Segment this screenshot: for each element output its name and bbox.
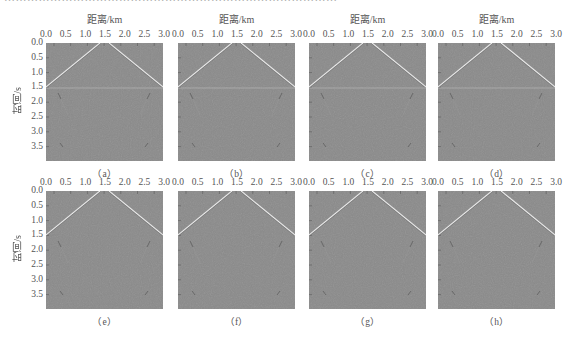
x-tick: 1.0: [79, 29, 91, 39]
y-tick: 3.0: [31, 274, 43, 284]
x-axis-title: 距离/km: [438, 11, 555, 26]
x-tick: 0.0: [172, 29, 184, 39]
x-tick: 2.5: [270, 177, 282, 187]
x-tick: 0.5: [60, 29, 72, 39]
x-tick: 3.0: [550, 29, 562, 39]
seismic-plot: [178, 43, 295, 161]
x-tick: 3.0: [290, 177, 302, 187]
x-tick: 0.0: [303, 29, 315, 39]
seismic-plot: [178, 191, 295, 309]
y-axis-title: 时间/s: [10, 87, 25, 114]
seismic-plot: [46, 191, 163, 309]
x-tick: 1.0: [79, 177, 91, 187]
x-tick-labels: 0.00.51.01.52.02.53.0: [303, 177, 433, 187]
x-tick: 0.5: [323, 177, 335, 187]
x-tick: 1.5: [362, 177, 374, 187]
x-tick: 1.5: [231, 177, 243, 187]
x-tick: 2.0: [119, 177, 131, 187]
x-tick: 1.0: [342, 29, 354, 39]
y-tick: 0.0: [31, 37, 43, 47]
x-axis-title: 距离/km: [46, 11, 163, 26]
y-tick: 2.0: [31, 244, 43, 254]
y-tick: 1.0: [31, 215, 43, 225]
x-tick: 2.0: [251, 29, 263, 39]
x-tick: 2.5: [530, 177, 542, 187]
x-tick: 1.0: [211, 177, 223, 187]
x-tick: 1.5: [491, 29, 503, 39]
x-tick: 3.0: [158, 177, 170, 187]
x-tick: 0.0: [303, 177, 315, 187]
x-tick: 0.0: [432, 29, 444, 39]
x-tick: 1.0: [211, 29, 223, 39]
x-tick: 0.5: [192, 29, 204, 39]
x-tick: 2.0: [511, 29, 523, 39]
y-tick: 3.5: [31, 289, 43, 299]
x-tick: 0.5: [452, 177, 464, 187]
x-tick: 2.5: [401, 177, 413, 187]
x-tick: 2.5: [270, 29, 282, 39]
subplot-caption: （h）: [438, 314, 555, 328]
y-tick: 1.5: [31, 81, 43, 91]
x-tick: 0.0: [172, 177, 184, 187]
y-tick: 3.5: [31, 141, 43, 151]
x-tick: 2.5: [401, 29, 413, 39]
y-tick: 0.5: [31, 200, 43, 210]
subplot-caption: （g）: [309, 314, 426, 328]
x-tick: 0.5: [452, 29, 464, 39]
y-tick: 2.5: [31, 259, 43, 269]
x-tick-labels: 0.00.51.01.52.02.53.0: [40, 177, 170, 187]
x-tick: 1.5: [362, 29, 374, 39]
cropped-text-bottom: …………………………………………………………………………: [0, 337, 572, 342]
seismic-plot: [438, 43, 555, 161]
y-tick-labels: 0.00.51.01.52.02.53.03.5: [26, 191, 43, 309]
x-tick: 0.5: [192, 177, 204, 187]
x-tick-labels: 0.00.51.01.52.02.53.0: [303, 29, 433, 39]
x-tick: 2.0: [251, 177, 263, 187]
seismic-plot: [309, 191, 426, 309]
seismic-plot: [46, 43, 163, 161]
cropped-text-top: ……………………………………………………………………………: [0, 0, 572, 4]
x-tick: 1.5: [99, 177, 111, 187]
x-tick: 1.5: [231, 29, 243, 39]
x-tick: 2.0: [382, 29, 394, 39]
x-tick: 1.0: [471, 177, 483, 187]
x-tick: 2.5: [530, 29, 542, 39]
x-tick: 1.0: [471, 29, 483, 39]
x-tick-labels: 0.00.51.01.52.02.53.0: [40, 29, 170, 39]
x-tick: 2.5: [138, 177, 150, 187]
x-tick: 0.0: [432, 177, 444, 187]
seismic-plot: [309, 43, 426, 161]
y-tick: 2.0: [31, 96, 43, 106]
y-tick: 0.0: [31, 185, 43, 195]
x-tick-labels: 0.00.51.01.52.02.53.0: [172, 177, 302, 187]
x-tick-labels: 0.00.51.01.52.02.53.0: [432, 177, 562, 187]
y-tick: 2.5: [31, 111, 43, 121]
x-tick-labels: 0.00.51.01.52.02.53.0: [172, 29, 302, 39]
y-tick-labels: 0.00.51.01.52.02.53.03.5: [26, 43, 43, 161]
x-tick: 3.0: [550, 177, 562, 187]
x-tick: 3.0: [158, 29, 170, 39]
x-tick: 1.0: [342, 177, 354, 187]
x-tick: 2.0: [382, 177, 394, 187]
subplot-caption: （e）: [46, 314, 163, 328]
x-tick-labels: 0.00.51.01.52.02.53.0: [432, 29, 562, 39]
x-tick: 1.5: [491, 177, 503, 187]
x-tick: 1.5: [99, 29, 111, 39]
x-tick: 2.0: [511, 177, 523, 187]
y-tick: 0.5: [31, 52, 43, 62]
x-tick: 2.5: [138, 29, 150, 39]
x-tick: 0.5: [323, 29, 335, 39]
x-tick: 3.0: [290, 29, 302, 39]
x-axis-title: 距离/km: [309, 11, 426, 26]
seismic-plot: [438, 191, 555, 309]
y-tick: 3.0: [31, 126, 43, 136]
y-tick: 1.0: [31, 67, 43, 77]
x-tick: 2.0: [119, 29, 131, 39]
x-axis-title: 距离/km: [178, 11, 295, 26]
y-tick: 1.5: [31, 229, 43, 239]
y-axis-title: 时间/s: [10, 235, 25, 262]
x-tick: 0.5: [60, 177, 72, 187]
subplot-caption: （f）: [178, 314, 295, 328]
